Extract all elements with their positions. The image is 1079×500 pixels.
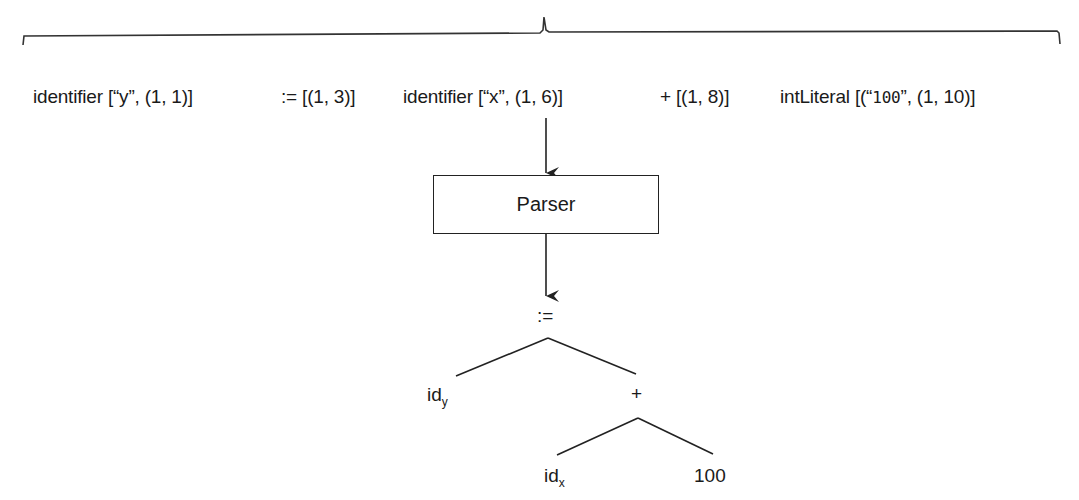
node-base: id xyxy=(544,465,559,486)
node-subscript: y xyxy=(442,395,448,409)
token-identifier-x: identifier [“x”, (1, 6)] xyxy=(403,86,563,108)
token-int-literal: intLiteral [(“100”, (1, 10)] xyxy=(780,86,975,108)
ast-node-id-y: idy xyxy=(427,384,448,409)
parser-label: Parser xyxy=(517,193,576,216)
diagram-lines xyxy=(0,0,1079,500)
ast-node-100: 100 xyxy=(694,465,726,487)
ast-edge-plus-left xyxy=(557,418,638,455)
ast-edge-root-left xyxy=(456,338,548,376)
token-text: identifier [“ xyxy=(403,86,489,107)
node-base: id xyxy=(427,384,442,405)
ast-edge-root-right xyxy=(548,338,636,374)
token-text: ”, (1, 1)] xyxy=(128,86,193,107)
token-identifier-y: identifier [“y”, (1, 1)] xyxy=(33,86,193,108)
token-value: 100 xyxy=(872,88,900,107)
token-text: intLiteral [(“ xyxy=(780,86,872,107)
node-subscript: x xyxy=(559,476,565,490)
token-text: ”, (1, 10)] xyxy=(901,86,976,107)
token-assign: := [(1, 3)] xyxy=(281,86,355,108)
token-text: ”, (1, 6)] xyxy=(498,86,563,107)
token-text: identifier [“ xyxy=(33,86,119,107)
ast-edge-plus-right xyxy=(638,418,713,454)
ast-node-plus: + xyxy=(631,383,642,405)
parser-box: Parser xyxy=(433,175,659,234)
ast-node-assign: := xyxy=(537,305,553,327)
ast-node-id-x: idx xyxy=(544,465,565,490)
token-plus: + [(1, 8)] xyxy=(660,86,729,108)
token-stream-brace xyxy=(23,17,1060,45)
